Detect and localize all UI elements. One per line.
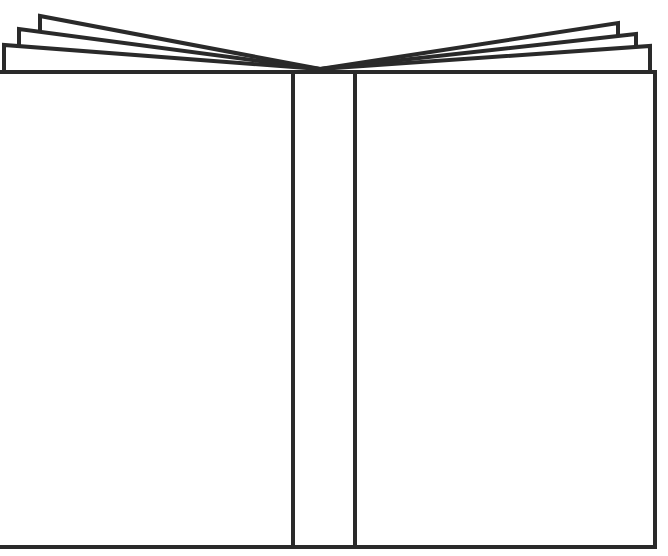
book-covers	[0, 72, 655, 547]
right-page-fan	[320, 23, 650, 72]
left-cover	[0, 72, 293, 547]
left-page-fan	[4, 16, 320, 72]
book-drawing	[0, 0, 668, 556]
book-spine	[293, 72, 355, 547]
right-cover	[355, 72, 655, 547]
open-book-illustration: Open book outline	[0, 0, 668, 556]
